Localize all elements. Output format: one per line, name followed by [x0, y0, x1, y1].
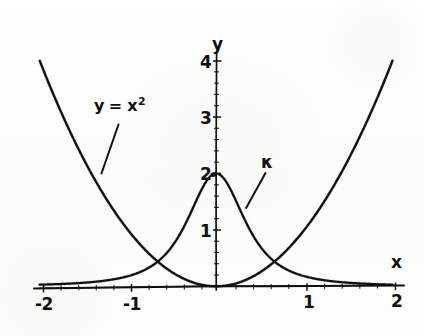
leader-lines — [101, 125, 265, 208]
kappa-leader-line — [246, 173, 265, 208]
y-tick-label-1: 1 — [200, 223, 211, 240]
x-tick-label--1: -1 — [123, 296, 141, 313]
x-axis-name: x — [391, 254, 402, 271]
curvature-figure: y x 4 3 2 1 -2 -1 1 2 y=x2 κ — [0, 0, 424, 336]
x-tick-label-2: 2 — [391, 293, 402, 310]
x-tick-label-1: 1 — [303, 294, 314, 311]
y-tick-label-3: 3 — [200, 110, 211, 127]
parabola-annotation: y=x2 — [94, 96, 146, 114]
parabola-leader-line — [101, 125, 118, 174]
y-tick-label-4: 4 — [200, 54, 211, 71]
kappa-apex-blob — [211, 172, 217, 177]
parabola-annotation-equals: = — [109, 96, 123, 115]
y-axis-line — [216, 52, 217, 290]
curvature-annotation: κ — [261, 154, 273, 171]
y-axis-name: y — [212, 36, 223, 53]
y-tick-label-2: 2 — [200, 166, 211, 183]
x-tick-label--2: -2 — [35, 296, 53, 313]
parabola-annotation-y: y — [94, 96, 105, 115]
parabola-annotation-exponent: 2 — [138, 95, 146, 108]
parabola-annotation-x: x — [127, 96, 138, 115]
